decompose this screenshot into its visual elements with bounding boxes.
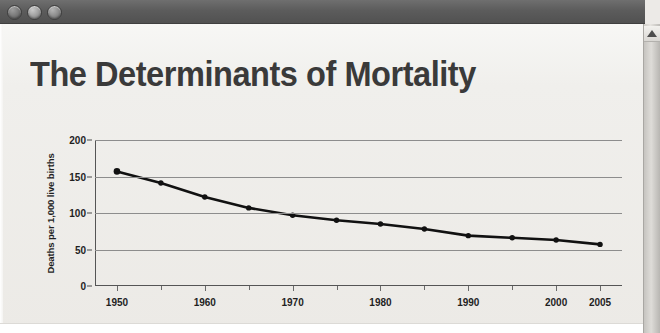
chart-x-tick-label: 1960 <box>194 297 216 308</box>
chart-x-tick-label: 2005 <box>589 297 611 308</box>
chart-data-point <box>114 168 121 175</box>
chart-y-tick-mark <box>87 176 92 177</box>
chart-y-tick-label: 200 <box>69 135 86 146</box>
application-window: The Determinants of Mortality Deaths per… <box>0 0 660 333</box>
chart-x-tick-mark <box>205 286 206 291</box>
page-title: The Determinants of Mortality <box>30 54 476 94</box>
chart-x-tick-mark <box>117 286 118 291</box>
chart-data-point <box>202 194 207 199</box>
chart-x-minor-tick-mark <box>161 286 162 290</box>
chart-y-tick-mark <box>87 286 92 287</box>
chart-y-tick-mark <box>87 249 92 250</box>
chart-line-path <box>117 171 600 244</box>
chart-data-point <box>466 233 471 238</box>
chart-y-tick-label: 0 <box>80 281 86 292</box>
vertical-scrollbar[interactable] <box>643 24 660 333</box>
chart-x-minor-tick-mark <box>337 286 338 290</box>
chart-plot-area: 1950196019701980199020002005 <box>95 140 622 286</box>
chart-x-minor-tick-mark <box>512 286 513 290</box>
chart-data-point <box>334 218 339 223</box>
zoom-button[interactable] <box>47 5 62 20</box>
window-titlebar[interactable] <box>0 0 645 24</box>
chart-x-tick-mark <box>556 286 557 291</box>
mortality-line-chart: Deaths per 1,000 live births 05010015020… <box>42 140 622 312</box>
chart-data-point <box>158 180 163 185</box>
chart-y-tick-label: 150 <box>69 171 86 182</box>
chart-data-point <box>422 226 427 231</box>
chart-data-point <box>510 235 515 240</box>
chart-x-tick-label: 1990 <box>457 297 479 308</box>
close-button[interactable] <box>7 5 22 20</box>
chart-y-tick-label: 100 <box>69 208 86 219</box>
chart-y-axis-label: Deaths per 1,000 live births <box>42 140 58 286</box>
chart-gridline <box>95 213 622 214</box>
window-controls <box>7 5 62 20</box>
chart-x-minor-tick-mark <box>249 286 250 290</box>
chart-y-tick-mark <box>87 213 92 214</box>
chart-data-point <box>553 237 558 242</box>
chart-x-tick-mark <box>380 286 381 291</box>
chart-x-tick-mark <box>468 286 469 291</box>
chart-data-point <box>246 205 251 210</box>
chart-x-tick-mark <box>293 286 294 291</box>
chart-x-tick-label: 1980 <box>369 297 391 308</box>
chart-y-tick-label: 50 <box>75 244 86 255</box>
chart-y-tick-mark <box>87 140 92 141</box>
chart-x-tick-label: 1970 <box>282 297 304 308</box>
chart-data-point <box>597 242 602 247</box>
screen: The Determinants of Mortality Deaths per… <box>0 0 660 333</box>
chart-x-tick-label: 1950 <box>106 297 128 308</box>
chart-data-point <box>378 221 383 226</box>
document-left-edge <box>0 24 3 333</box>
scroll-up-arrow-icon[interactable] <box>644 26 660 42</box>
chart-gridline <box>95 177 622 178</box>
chart-x-tick-label: 2000 <box>545 297 567 308</box>
chart-gridline <box>95 140 622 141</box>
chart-gridline <box>95 250 622 251</box>
document-bottom-band <box>0 323 645 333</box>
chart-x-minor-tick-mark <box>424 286 425 290</box>
minimize-button[interactable] <box>27 5 42 20</box>
chart-y-axis-label-text: Deaths per 1,000 live births <box>45 153 56 273</box>
scrollbar-track[interactable] <box>644 42 660 333</box>
chart-x-tick-mark <box>600 286 601 291</box>
chart-y-axis-ticks: 050100150200 <box>58 140 92 286</box>
